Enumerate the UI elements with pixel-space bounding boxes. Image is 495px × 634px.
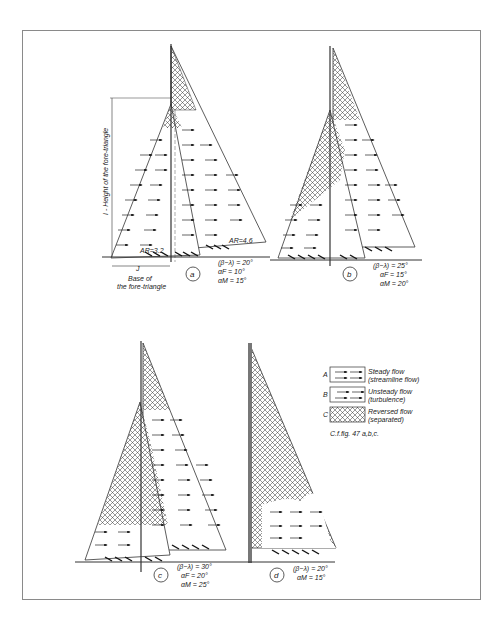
base-label-line2: the fore-triangle: [117, 283, 166, 291]
svg-text:C: C: [323, 411, 329, 418]
svg-text:B: B: [323, 391, 328, 398]
svg-text:b: b: [347, 270, 352, 279]
svg-text:Steady flow: Steady flow: [368, 368, 405, 376]
jib-aspect-ratio: AR=3.2: [139, 247, 164, 254]
caption-a-3: αM = 15°: [218, 277, 247, 284]
svg-text:d: d: [274, 571, 279, 580]
svg-text:(turbulence): (turbulence): [368, 396, 405, 404]
svg-text:(streamline flow): (streamline flow): [368, 376, 419, 384]
base-symbol: J: [135, 265, 140, 272]
svg-text:a: a: [190, 270, 195, 279]
caption-c-2: αF = 20°: [181, 572, 208, 579]
panel-d: d (β−λ) = 20° αM = 15°: [240, 343, 336, 582]
sail-flow-diagram: AR=3.2 AR=4.6 I - Height of the fore-tri…: [0, 0, 495, 634]
caption-b-1: (β−λ) = 25°: [373, 262, 408, 270]
legend-note: C.f.fig. 47 a,b,c.: [330, 430, 379, 438]
svg-text:c: c: [158, 571, 162, 580]
base-label-line1: Base of: [128, 275, 153, 282]
main-aspect-ratio: AR=4.6: [228, 237, 253, 244]
height-label: I - Height of the fore-triangle: [102, 128, 110, 215]
svg-text:(separated): (separated): [368, 416, 404, 424]
svg-text:Reversed flow: Reversed flow: [368, 408, 413, 415]
panel-a: AR=3.2 AR=4.6 I - Height of the fore-tri…: [102, 44, 270, 291]
panel-b: b (β−λ) = 25° αF = 15° αM = 20°: [270, 46, 422, 287]
caption-d-1: (β−λ) = 20°: [293, 565, 328, 573]
caption-a-2: αF = 10°: [218, 268, 245, 275]
caption-c-3: αM = 25°: [181, 581, 210, 588]
panel-c: c (β−λ) = 30° αF = 20° αM = 25°: [75, 341, 240, 588]
caption-a-1: (β−λ) = 20°: [218, 259, 253, 267]
svg-text:A: A: [322, 371, 328, 378]
caption-b-2: αF = 15°: [380, 271, 407, 278]
caption-c-1: (β−λ) = 30°: [177, 563, 212, 571]
svg-text:Unsteady flow: Unsteady flow: [368, 388, 413, 396]
legend: A Steady flow (streamline flow) B Unstea…: [322, 367, 419, 438]
caption-d-2: αM = 15°: [297, 574, 326, 581]
caption-b-3: αM = 20°: [380, 280, 409, 287]
